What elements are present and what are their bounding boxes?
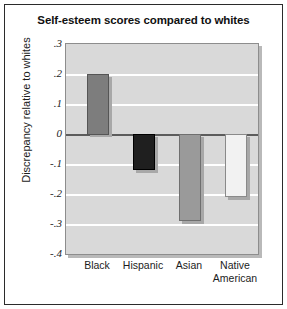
gridline [66,224,258,226]
x-tick-label-native-american: Native American [203,259,267,284]
x-tick-line: Native [203,259,267,272]
y-tick-label: -.3 [22,218,62,229]
plot-area [65,43,259,255]
bar-black [87,74,109,135]
chart-figure: Self-esteem scores compared to whites .3… [0,0,287,309]
x-axis-tick-labels: Black Hispanic Asian Native American [65,259,259,303]
y-tick-label: -.4 [22,248,62,259]
x-tick-line: American [203,272,267,285]
bar-hispanic [133,134,155,170]
bar-native-american [225,134,247,197]
bar-asian [179,134,201,221]
gridline [66,254,258,255]
chart-title: Self-esteem scores compared to whites [0,14,287,26]
plot-area-wrapper [65,43,259,255]
y-axis-title: Discrepancy relative to whites [20,20,32,200]
